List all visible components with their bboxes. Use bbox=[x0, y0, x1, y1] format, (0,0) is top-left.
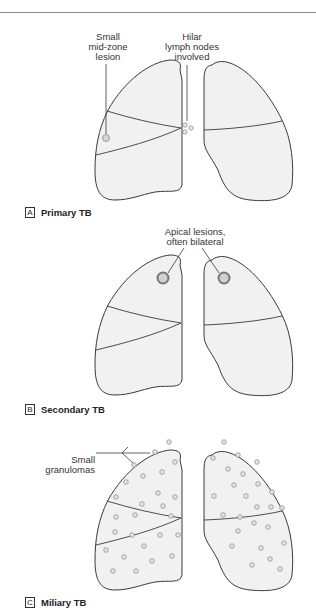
granuloma-icon bbox=[173, 460, 178, 465]
granuloma-icon bbox=[173, 495, 178, 500]
granuloma-icon bbox=[259, 546, 264, 551]
granuloma-icon bbox=[167, 440, 172, 445]
granuloma-icon bbox=[221, 513, 226, 518]
granuloma-icon bbox=[160, 470, 165, 475]
granuloma-icon bbox=[232, 483, 237, 488]
granuloma-icon bbox=[255, 460, 260, 465]
panel-a-lungs bbox=[95, 60, 293, 201]
panel-title-primary-tb: Primary TB bbox=[41, 207, 92, 218]
granuloma-icon bbox=[111, 569, 116, 574]
granuloma-icon bbox=[241, 472, 246, 477]
granuloma-icon bbox=[170, 554, 175, 559]
callout-small-granulomas: Small granulomas bbox=[45, 455, 95, 475]
granuloma-icon bbox=[226, 467, 231, 472]
granuloma-icon bbox=[140, 502, 145, 507]
callout-leader-granulomas-branch bbox=[122, 447, 128, 453]
panel-a-label: A Primary TB bbox=[25, 207, 92, 218]
granuloma-icon bbox=[236, 453, 241, 458]
callout-hilar-lymph-nodes: Hilar lymph nodes involved bbox=[162, 32, 222, 62]
callout-small-mid-zone-lesion: Small mid-zone lesion bbox=[88, 32, 128, 62]
left-lung bbox=[95, 450, 182, 590]
granuloma-icon bbox=[270, 490, 275, 495]
mid-zone-lesion-icon bbox=[103, 135, 110, 142]
granuloma-icon bbox=[238, 515, 243, 520]
granuloma-icon bbox=[124, 480, 129, 485]
granuloma-icon bbox=[104, 548, 109, 553]
apical-lesion-right-icon bbox=[219, 273, 230, 284]
right-lung bbox=[204, 257, 293, 396]
granuloma-icon bbox=[169, 514, 174, 519]
panel-letter-a: A bbox=[25, 207, 35, 218]
granuloma-icon bbox=[142, 544, 147, 549]
granuloma-icon bbox=[212, 494, 217, 499]
granuloma-icon bbox=[236, 529, 241, 534]
hilar-node-icon bbox=[183, 123, 187, 127]
granuloma-icon bbox=[176, 533, 181, 538]
granuloma-icon bbox=[150, 559, 155, 564]
granuloma-icon bbox=[114, 495, 119, 500]
tb-lung-diagram bbox=[0, 0, 316, 615]
granuloma-icon bbox=[266, 525, 271, 530]
callout-apical-lesions: Apical lesions, often bilateral bbox=[155, 227, 235, 247]
granuloma-icon bbox=[130, 533, 135, 538]
panel-title-secondary-tb: Secondary TB bbox=[41, 404, 105, 415]
panel-letter-b: B bbox=[25, 404, 35, 415]
panel-b-lungs bbox=[95, 248, 293, 396]
granuloma-icon bbox=[230, 544, 235, 549]
right-lung bbox=[204, 62, 293, 201]
granuloma-icon bbox=[158, 533, 163, 538]
granuloma-icon bbox=[280, 506, 285, 511]
granuloma-icon bbox=[134, 569, 139, 574]
granuloma-icon bbox=[113, 530, 118, 535]
granuloma-icon bbox=[211, 456, 216, 461]
panel-b-label: B Secondary TB bbox=[25, 404, 105, 415]
panel-c-lungs bbox=[95, 440, 293, 591]
left-lung bbox=[95, 60, 182, 200]
granuloma-icon bbox=[141, 474, 146, 479]
granuloma-icon bbox=[269, 505, 274, 510]
granuloma-icon bbox=[255, 505, 260, 510]
panel-title-miliary-tb: Miliary TB bbox=[41, 597, 86, 608]
hilar-node-icon bbox=[183, 130, 187, 134]
granuloma-icon bbox=[133, 513, 138, 518]
hilar-node-icon bbox=[189, 126, 193, 130]
granuloma-icon bbox=[252, 521, 257, 526]
granuloma-icon bbox=[122, 555, 127, 560]
panel-letter-c: C bbox=[25, 597, 35, 608]
granuloma-icon bbox=[268, 557, 273, 562]
granuloma-icon bbox=[156, 491, 161, 496]
granuloma-icon bbox=[244, 494, 249, 499]
granuloma-icon bbox=[153, 450, 158, 455]
granuloma-icon bbox=[114, 515, 119, 520]
granuloma-icon bbox=[132, 463, 137, 468]
granuloma-icon bbox=[222, 440, 227, 445]
panel-c-label: C Miliary TB bbox=[25, 597, 86, 608]
granuloma-icon bbox=[161, 504, 166, 509]
granuloma-icon bbox=[256, 482, 261, 487]
granuloma-icon bbox=[282, 541, 287, 546]
apical-lesion-left-icon bbox=[158, 273, 169, 284]
granuloma-icon bbox=[278, 567, 283, 572]
callout-leader-granulomas-branch bbox=[122, 453, 133, 463]
granuloma-icon bbox=[250, 563, 255, 568]
